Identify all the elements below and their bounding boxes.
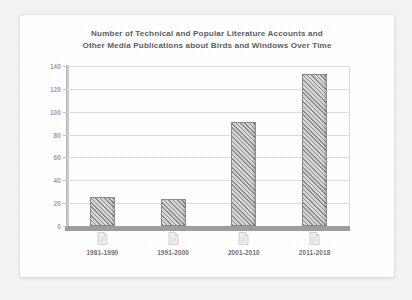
bar-1981-1990[interactable] [90,197,115,226]
y-tick-mark [63,66,67,67]
y-tick-label: 20 [54,200,61,207]
y-tick-label: 40 [54,177,61,184]
document-icon [168,232,179,245]
plot-border-right [349,66,350,226]
y-tick-label: 60 [54,154,61,161]
x-category-label: 2001-2010 [209,249,279,256]
y-tick-label: 80 [54,131,61,138]
chart-page: Number of Technical and Popular Literatu… [19,14,395,278]
document-icon [97,232,108,245]
y-tick-mark [63,203,67,204]
x-category-1981-1990: 1981-1990 [67,232,137,256]
y-tick-mark [63,157,67,158]
y-tick-label: 120 [50,85,61,92]
x-axis-baseline [65,226,350,231]
x-category-1991-2000: 1991-2000 [138,232,208,256]
y-tick-mark [63,226,67,227]
x-category-2001-2010: 2001-2010 [209,232,279,256]
document-icon [238,232,249,245]
x-category-label: 2011-2018 [280,249,350,256]
chart-title: Number of Technical and Popular Literatu… [20,28,394,51]
y-tick-mark [63,135,67,136]
y-tick-mark [63,89,67,90]
x-category-label: 1981-1990 [67,249,137,256]
x-category-label: 1991-2000 [138,249,208,256]
plot-area: 020406080100120140 1981-19901991-2000200… [67,66,350,226]
y-tick-label: 140 [50,63,61,70]
bar-1991-2000[interactable] [161,199,186,226]
y-tick-label: 100 [50,108,61,115]
bar-2001-2010[interactable] [231,122,256,226]
y-tick-mark [63,112,67,113]
bar-2011-2018[interactable] [302,74,327,226]
y-tick-label: 0 [57,223,61,230]
gridline [67,66,350,67]
y-tick-mark [63,180,67,181]
x-category-2011-2018: 2011-2018 [280,232,350,256]
document-icon [309,232,320,245]
